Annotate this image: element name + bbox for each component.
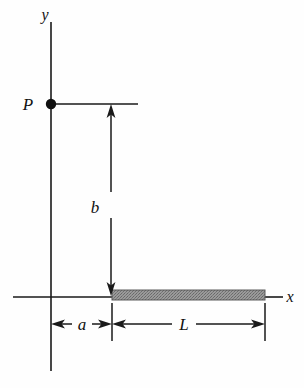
dimension-l: L xyxy=(112,315,265,334)
point-p-marker xyxy=(46,99,56,109)
dim-l-label: L xyxy=(178,315,188,334)
shaded-rod xyxy=(112,290,265,300)
rod-body xyxy=(112,290,265,300)
point-p-label: P xyxy=(22,95,33,114)
x-axis-label: x xyxy=(285,288,293,305)
y-axis-label: y xyxy=(39,6,49,24)
dimension-a: a xyxy=(51,315,112,334)
dimension-b: b xyxy=(91,104,116,296)
diagram-canvas: y x P b xyxy=(0,0,304,388)
dim-a-label: a xyxy=(78,315,87,334)
figure-root: y x P b xyxy=(0,0,304,388)
point-p: P xyxy=(22,95,138,114)
dim-b-label: b xyxy=(91,198,100,217)
